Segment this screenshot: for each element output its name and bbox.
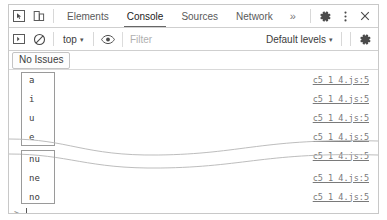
- log-levels-dropdown[interactable]: Default levels ▾: [262, 34, 337, 45]
- more-options-icon[interactable]: [335, 7, 355, 26]
- console-message-text: e: [9, 132, 34, 142]
- devtools-panel: Elements Console Sources Network »: [8, 4, 379, 214]
- filter-divider-1: [53, 32, 54, 46]
- inspect-element-icon[interactable]: [9, 7, 29, 26]
- source-location-link[interactable]: c5_1_4.js:5: [313, 173, 369, 183]
- devtools-tab-list: Elements Console Sources Network »: [58, 5, 306, 27]
- filter-divider-2: [93, 32, 94, 46]
- filter-divider-4: [350, 32, 351, 46]
- console-message-text: no: [9, 192, 40, 202]
- execution-context-label: top: [63, 34, 77, 45]
- source-location-link[interactable]: c5_1_4.js:5: [313, 132, 369, 142]
- tab-elements[interactable]: Elements: [58, 5, 118, 27]
- filter-placeholder-text: Filter: [130, 34, 152, 45]
- source-location-link[interactable]: c5_1_4.js:5: [313, 94, 369, 104]
- console-group-bottom: nu ne c5_1_4.js:5 no c5_1_4.js:5: [9, 149, 378, 206]
- execution-context-selector[interactable]: top ▾: [58, 34, 89, 45]
- tab-console[interactable]: Console: [118, 5, 173, 27]
- console-message-text: a: [9, 75, 34, 85]
- issues-bar: No Issues: [9, 51, 378, 70]
- clear-console-icon[interactable]: [29, 30, 49, 49]
- console-settings-gear-icon[interactable]: [355, 30, 375, 49]
- tab-sources[interactable]: Sources: [172, 5, 227, 27]
- no-issues-button[interactable]: No Issues: [12, 52, 70, 69]
- source-location-link[interactable]: c5_1_4.js:5: [313, 75, 369, 85]
- console-message-text: nu: [9, 154, 40, 164]
- console-message-row[interactable]: a c5_1_4.js:5: [9, 70, 378, 89]
- device-toolbar-icon[interactable]: [29, 7, 49, 26]
- console-message-text: i: [9, 94, 34, 104]
- console-message-row[interactable]: i c5_1_4.js:5: [9, 89, 378, 108]
- settings-gear-icon[interactable]: [315, 7, 335, 26]
- chevron-down-icon: ▾: [329, 36, 333, 43]
- toolbar-right-icons: [306, 7, 378, 26]
- console-message-row[interactable]: u c5_1_4.js:5: [9, 108, 378, 127]
- console-message-row[interactable]: e c5_1_4.js:5: [9, 127, 378, 146]
- source-location-link[interactable]: c5_1_4.js:5: [313, 113, 369, 123]
- close-icon[interactable]: [355, 7, 375, 26]
- live-expression-eye-icon[interactable]: [98, 30, 118, 49]
- tab-overflow-chevron-icon[interactable]: »: [282, 5, 304, 27]
- console-prompt-caret-icon: >: [9, 208, 26, 213]
- toolbar-divider-right: [310, 9, 311, 23]
- console-message-list[interactable]: a c5_1_4.js:5 i c5_1_4.js:5 u c5_1_4.js:…: [9, 70, 378, 213]
- log-levels-label: Default levels: [266, 34, 326, 45]
- chevron-down-icon: ▾: [80, 36, 84, 43]
- tab-network[interactable]: Network: [227, 5, 282, 27]
- source-location-link[interactable]: c5_1_4.js:5: [313, 192, 369, 202]
- console-text-cursor[interactable]: [26, 208, 27, 213]
- devtools-main-toolbar: Elements Console Sources Network »: [9, 5, 378, 28]
- console-message-text: ne: [9, 173, 40, 183]
- console-message-row[interactable]: ne c5_1_4.js:5: [9, 168, 378, 187]
- console-message-row-partial[interactable]: nu: [9, 149, 378, 168]
- console-message-row[interactable]: no c5_1_4.js:5: [9, 187, 378, 206]
- console-filter-toolbar: top ▾ Filter Default levels ▾: [9, 28, 378, 51]
- console-prompt-row[interactable]: >: [9, 205, 378, 213]
- console-message-text: u: [9, 113, 34, 123]
- toolbar-divider: [53, 9, 54, 23]
- console-filter-input[interactable]: Filter: [122, 32, 258, 47]
- console-sidebar-icon[interactable]: [9, 30, 29, 49]
- filter-divider-3: [341, 32, 342, 46]
